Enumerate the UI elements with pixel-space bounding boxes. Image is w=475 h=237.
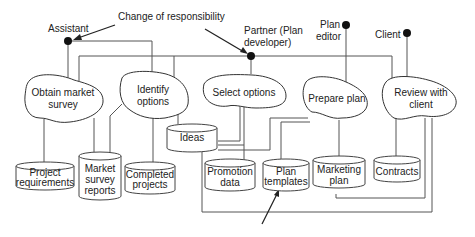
role-label-client: Client bbox=[375, 29, 401, 40]
role-dot-assistant bbox=[64, 37, 72, 45]
store-label-marketing-line2: plan bbox=[330, 175, 349, 186]
store-label-project-req-line2: requirements bbox=[16, 177, 74, 188]
store-label-completed-line2: projects bbox=[132, 179, 167, 190]
activity-label-review-line1: Review with bbox=[394, 87, 447, 98]
activity-label-obtain-line1: Obtain market bbox=[32, 87, 95, 98]
activity-label-obtain-line2: survey bbox=[48, 99, 77, 110]
role-dot-partner bbox=[247, 52, 255, 60]
store-label-promotion-line2: data bbox=[220, 177, 240, 188]
role-dot-client bbox=[403, 29, 411, 37]
store-label-market-survey-line1: Market bbox=[85, 163, 116, 174]
activity-label-review-line2: client bbox=[409, 99, 433, 110]
store-label-plan-templates-line2: templates bbox=[264, 176, 307, 187]
store-label-market-survey-line2: survey bbox=[85, 174, 114, 185]
change-of-responsibility-label: Change of responsibility bbox=[118, 11, 225, 22]
role-label-partner-line1: Partner (Plan bbox=[244, 25, 303, 36]
role-dot-plan-editor bbox=[342, 21, 350, 29]
activity-label-identify-line1: Identify bbox=[137, 84, 169, 95]
activity-label-identify-line2: options bbox=[137, 96, 169, 107]
role-label-assistant: Assistant bbox=[48, 23, 89, 34]
store-label-ideas: Ideas bbox=[180, 132, 204, 143]
activity-label-prepare-plan: Prepare plan bbox=[308, 93, 365, 104]
store-label-promotion-line1: Promotion bbox=[207, 166, 253, 177]
store-label-marketing-line1: Marketing bbox=[317, 164, 361, 175]
role-label-plan-editor-line1: Plan bbox=[320, 19, 340, 30]
role-label-partner-line2: developer) bbox=[244, 37, 291, 48]
role-activity-diagram: Change of responsibility Assistant Partn… bbox=[0, 0, 475, 237]
role-label-plan-editor-line2: editor bbox=[316, 31, 342, 42]
store-label-market-survey-line3: reports bbox=[84, 185, 115, 196]
activity-label-select-options: Select options bbox=[213, 87, 276, 98]
store-label-contracts: Contracts bbox=[376, 166, 419, 177]
